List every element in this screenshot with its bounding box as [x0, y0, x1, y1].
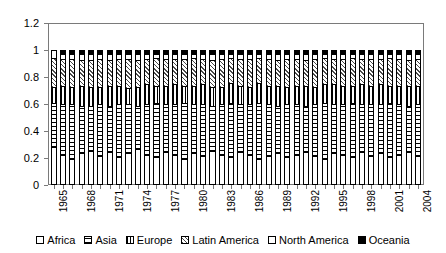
- bar-segment: [397, 86, 401, 105]
- stacked-bar: [191, 50, 197, 185]
- x-label-slot: 1998: [357, 190, 366, 226]
- bar-slot: [376, 23, 385, 185]
- bar-segment: [154, 58, 158, 86]
- y-tick-label: 0.6: [24, 99, 39, 110]
- bar-slot: [264, 23, 273, 185]
- bar-segment: [89, 54, 93, 61]
- x-tick-mark: [213, 185, 214, 189]
- stacked-bar: [88, 50, 94, 185]
- bar-slot: [199, 23, 208, 185]
- x-tick-mark: [91, 185, 92, 189]
- x-tick-mark: [184, 185, 185, 189]
- x-tick-mark: [110, 185, 111, 189]
- y-tick-label: 1.2: [24, 18, 39, 29]
- x-tick-mark: [72, 185, 73, 189]
- bar-segment: [192, 153, 196, 184]
- stacked-bar: [359, 50, 365, 185]
- bar-slot: [133, 23, 142, 185]
- bar-segment: [229, 58, 233, 83]
- legend-swatch-icon: [268, 236, 276, 244]
- x-label-slot: [264, 190, 273, 226]
- bar-slot: [348, 23, 357, 185]
- legend-label: Latin America: [192, 235, 259, 246]
- bar-slot: [170, 23, 179, 185]
- bar-segment: [52, 103, 56, 147]
- bar-segment: [304, 54, 308, 61]
- stacked-bar: [294, 50, 300, 185]
- x-label-slot: [283, 190, 292, 226]
- bar-segment: [295, 104, 299, 155]
- bars-layer: [48, 23, 424, 185]
- x-tick-mark: [278, 185, 279, 189]
- bar-segment: [238, 104, 242, 152]
- x-tick-mark: [325, 185, 326, 189]
- stacked-bar: [415, 50, 421, 185]
- x-tick-mark: [54, 185, 55, 189]
- bar-segment: [332, 84, 336, 104]
- bar-segment: [257, 83, 261, 103]
- bar-segment: [80, 86, 84, 106]
- bar-slot: [404, 23, 413, 185]
- bar-segment: [416, 156, 420, 184]
- bar-segment: [201, 84, 205, 104]
- bar-segment: [407, 86, 411, 106]
- bar-segment: [98, 104, 102, 156]
- legend-item: North America: [268, 235, 349, 246]
- bar-segment: [229, 83, 233, 103]
- x-tick-mark: [399, 185, 400, 189]
- bar-segment: [407, 54, 411, 61]
- bar-segment: [173, 155, 177, 184]
- bar-slot: [49, 23, 58, 185]
- bar-segment: [98, 87, 102, 104]
- stacked-bar: [209, 50, 215, 185]
- bar-segment: [360, 84, 364, 104]
- bar-segment: [369, 86, 373, 105]
- stacked-bar-chart: 00.20.40.60.811.2 1965196819711974197719…: [0, 0, 446, 253]
- stacked-bar: [60, 50, 66, 185]
- bar-segment: [351, 103, 355, 158]
- x-label-slot: 1971: [105, 190, 114, 226]
- bar-segment: [145, 84, 149, 104]
- x-tick-mark: [147, 185, 148, 189]
- bar-segment: [108, 60, 112, 85]
- x-tick-mark: [82, 185, 83, 189]
- stacked-bar: [135, 50, 141, 185]
- x-label-slot: 1986: [245, 190, 254, 226]
- bar-segment: [164, 86, 168, 105]
- bar-segment: [192, 58, 196, 86]
- legend-item: Europe: [126, 235, 172, 246]
- bar-segment: [267, 104, 271, 156]
- x-label-slot: [311, 190, 320, 226]
- x-label-slot: [236, 190, 245, 226]
- bar-segment: [164, 59, 168, 86]
- x-tick-mark: [156, 185, 157, 189]
- bar-segment: [388, 86, 392, 103]
- x-label-slot: [208, 190, 217, 226]
- x-tick-mark: [297, 185, 298, 189]
- bar-segment: [182, 159, 186, 184]
- x-tick-mark: [222, 185, 223, 189]
- bar-segment: [323, 84, 327, 103]
- bar-segment: [192, 86, 196, 105]
- legend-swatch-icon: [84, 236, 92, 244]
- stacked-bar: [237, 50, 243, 185]
- bar-segment: [341, 104, 345, 155]
- stacked-bar: [79, 50, 85, 185]
- legend-label: North America: [279, 235, 349, 246]
- bar-segment: [126, 59, 130, 88]
- bar-segment: [154, 86, 158, 103]
- bar-segment: [257, 103, 261, 159]
- x-axis-labels: 1965196819711974197719801983198619891992…: [48, 190, 424, 226]
- bar-slot: [58, 23, 67, 185]
- bar-slot: [329, 23, 338, 185]
- bar-segment: [379, 59, 383, 84]
- legend-item: Africa: [36, 235, 75, 246]
- bar-segment: [136, 106, 140, 150]
- bar-segment: [210, 60, 214, 87]
- bar-segment: [136, 60, 140, 87]
- bar-segment: [117, 104, 121, 157]
- bar-segment: [136, 87, 140, 106]
- bar-slot: [255, 23, 264, 185]
- bar-segment: [145, 104, 149, 155]
- bar-segment: [61, 104, 65, 155]
